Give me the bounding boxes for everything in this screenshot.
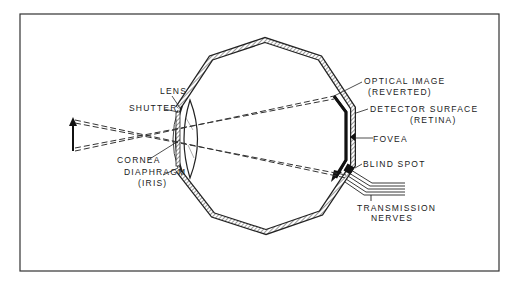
label-cornea: CORNEA — [117, 155, 161, 165]
label-transmission: TRANSMISSION — [357, 203, 436, 213]
eye-diagram — [0, 0, 518, 290]
label-shutter: SHUTTER — [129, 103, 178, 113]
label-optical-image: OPTICAL IMAGE — [364, 76, 445, 86]
optical-image-arrow — [331, 96, 346, 182]
label-iris: (IRIS) — [138, 178, 167, 188]
label-blind-spot: BLIND SPOT — [363, 159, 426, 169]
label-retina: (RETINA) — [410, 115, 456, 125]
label-reverted: (REVERTED) — [368, 87, 432, 97]
label-nerves: NERVES — [371, 213, 413, 223]
eyeball-wall — [178, 40, 353, 232]
label-detector-surface: DETECTOR SURFACE — [370, 104, 478, 114]
light-rays — [75, 96, 346, 178]
label-diaphragm: DIAPHRAGM — [124, 167, 186, 177]
object-arrow — [69, 117, 77, 151]
label-lens: LENS — [160, 86, 187, 96]
shutter — [176, 112, 180, 166]
transmission-nerves — [345, 170, 405, 201]
label-fovea: FOVEA — [373, 134, 408, 144]
